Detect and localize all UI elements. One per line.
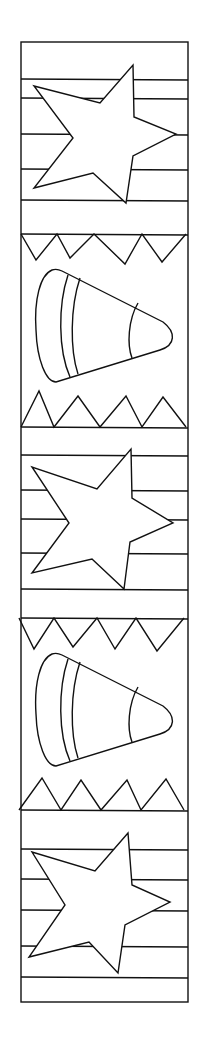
candy-corn-shape <box>36 269 173 382</box>
stripe-line <box>21 200 188 201</box>
zigzag-top <box>21 234 186 264</box>
coloring-page <box>0 0 198 1040</box>
stripe-line <box>21 589 188 590</box>
section-divider <box>21 427 188 428</box>
zigzag-top <box>19 618 184 651</box>
zigzag-bottom <box>19 778 184 810</box>
candy-corn-shape <box>36 653 173 766</box>
section-divider <box>21 618 188 619</box>
section-divider <box>21 810 188 811</box>
star-shape <box>29 833 170 973</box>
zigzag-bottom <box>21 391 186 427</box>
section-divider <box>21 234 188 235</box>
stripe-line <box>21 455 188 456</box>
stripe-line <box>21 849 188 850</box>
bookmark-drawing <box>19 42 188 1002</box>
stripe-line <box>21 79 188 80</box>
stripe-line <box>21 977 188 978</box>
